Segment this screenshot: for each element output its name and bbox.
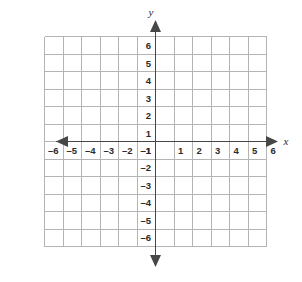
x-tick-label: 1 [178,145,184,156]
x-tick-label: 5 [252,145,258,156]
y-tick-label: –2 [140,162,151,173]
y-tick-label: –5 [140,215,151,226]
x-tick-label: –4 [85,145,96,156]
x-tick-label: –6 [48,145,59,156]
x-axis-tick-labels: –6–5–4–3–2–1123456 [48,145,276,156]
y-tick-label: 3 [146,93,151,104]
y-axis-up-arrow-icon [150,20,161,32]
y-tick-label: 2 [146,110,151,121]
y-tick-label: 1 [146,128,152,139]
x-tick-label: –2 [122,145,133,156]
y-tick-label: –4 [140,197,151,208]
coordinate-plane-figure: x y –6–5–4–3–2–1123456 –6–5–4–3–2–112345… [0,0,302,282]
x-tick-label: 4 [234,145,240,156]
x-tick-label: 6 [271,145,276,156]
y-tick-label: –6 [140,232,151,243]
y-tick-label: –1 [140,145,151,156]
y-tick-label: 6 [146,40,151,51]
x-tick-label: 2 [197,145,202,156]
y-axis-down-arrow-icon [150,255,161,267]
y-tick-label: 4 [146,75,152,86]
coordinate-plane-svg: x y –6–5–4–3–2–1123456 –6–5–4–3–2–112345… [0,0,302,282]
x-axis-name-label: x [283,135,289,147]
y-tick-label: –3 [140,180,151,191]
y-tick-label: 5 [146,58,152,69]
x-tick-label: 3 [215,145,220,156]
y-axis-name-label: y [148,6,154,18]
x-tick-label: –5 [67,145,78,156]
x-tick-label: –3 [104,145,115,156]
